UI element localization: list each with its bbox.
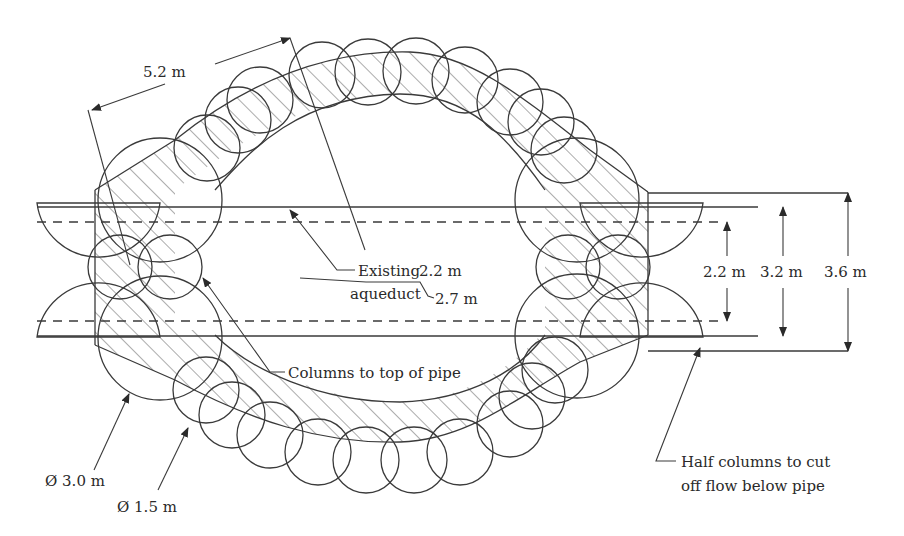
dim-2-2-label: 2.2 m: [703, 263, 746, 281]
existing-aqueduct-label-1: Existing: [358, 262, 420, 280]
dim-3-6-label: 3.6 m: [824, 263, 867, 281]
pipe-outer-label: 2.7 m: [435, 290, 478, 308]
columns-to-top-label: Columns to top of pipe: [288, 364, 461, 382]
small-column-diameter-label: Ø 1.5 m: [117, 498, 177, 516]
half-columns-label-1: Half columns to cut: [681, 453, 830, 471]
ring-width-label: 5.2 m: [143, 63, 186, 81]
dim-3-2-label: 3.2 m: [760, 263, 803, 281]
large-column-diameter-label: Ø 3.0 m: [45, 472, 105, 490]
ring-diagram-svg: 5.2 m Existing 2.2 m aqueduct 2.7 m Colu…: [0, 0, 904, 536]
pipe-inner-label: 2.2 m: [419, 262, 462, 280]
half-columns-label-2: off flow below pipe: [681, 477, 825, 495]
ring-hatched-fill: [95, 52, 648, 442]
diagram-canvas: 5.2 m Existing 2.2 m aqueduct 2.7 m Colu…: [0, 0, 904, 536]
existing-aqueduct-label-2: aqueduct: [350, 285, 421, 303]
